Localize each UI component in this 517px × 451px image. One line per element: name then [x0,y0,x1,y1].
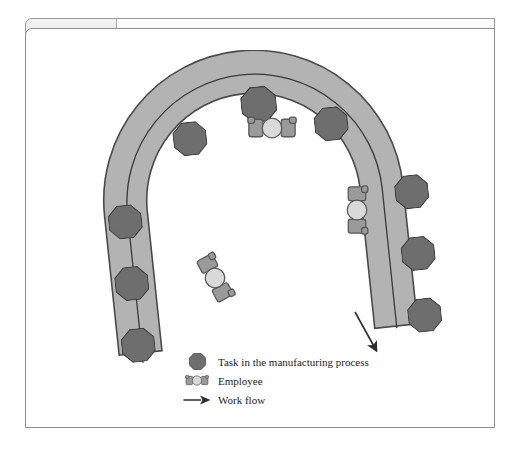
employee-bottom-left[interactable] [195,252,236,304]
arrow-right-icon [180,390,214,409]
employees-group [195,117,368,304]
employee-icon [180,371,214,390]
legend: Task in the manufacturing process Employ… [180,352,440,409]
legend-label-workflow: Work flow [214,394,265,406]
employee-right[interactable] [347,186,368,234]
legend-label-task: Task in the manufacturing process [214,356,369,368]
legend-item-employee: Employee [180,371,440,390]
legend-label-employee: Employee [214,375,263,387]
octagon-task-icon [180,352,214,371]
legend-item-task: Task in the manufacturing process [180,352,440,371]
legend-item-workflow: Work flow [180,390,440,409]
figure-container: Figure 8.1 A U-Shaped Work Cell Layout [0,0,517,451]
employee-top[interactable] [248,117,296,138]
